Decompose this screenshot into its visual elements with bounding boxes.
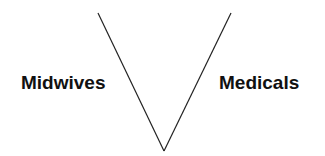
label-medicals: Medicals xyxy=(219,73,299,92)
v-diagram: Midwives Medicals xyxy=(0,0,325,156)
v-left-arm-line xyxy=(98,13,164,151)
label-midwives: Midwives xyxy=(21,73,105,92)
